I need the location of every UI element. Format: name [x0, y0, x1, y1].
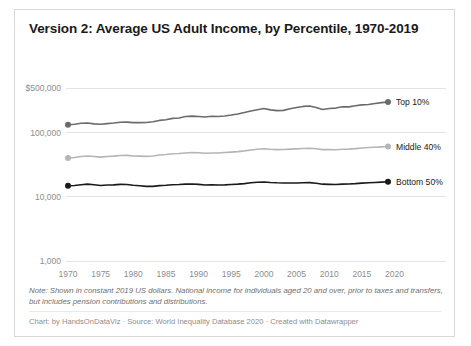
chart-card: Version 2: Average US Adult Income, by P… — [14, 9, 455, 337]
series-end-marker — [385, 144, 391, 150]
x-tick-label: 2015 — [352, 269, 371, 279]
x-tick-label: 1980 — [124, 269, 143, 279]
x-tick-label: 2020 — [385, 269, 404, 279]
x-tick-label: 1970 — [59, 269, 78, 279]
chart-title: Version 2: Average US Adult Income, by P… — [29, 20, 433, 37]
y-tick-label: 1,000 — [40, 256, 62, 266]
series-line — [68, 102, 388, 125]
gridlines — [66, 88, 446, 261]
series-end-marker — [385, 99, 391, 105]
series-label-bottom-50: Bottom 50% — [396, 177, 443, 187]
y-tick-label: 10,000 — [35, 192, 61, 202]
series-start-marker — [65, 183, 71, 189]
data-series-lines — [68, 102, 388, 186]
series-end-marker — [385, 179, 391, 185]
x-tick-label: 1975 — [91, 269, 110, 279]
chart-credit: Chart: by HandsOnDataViz · Source: World… — [29, 317, 443, 328]
y-axis-tick-labels: $500,000100,00010,0001,000 — [26, 83, 62, 266]
series-start-marker — [65, 122, 71, 128]
x-tick-label: 1995 — [222, 269, 241, 279]
series-endpoint-markers — [65, 99, 391, 189]
x-tick-label: 2000 — [254, 269, 273, 279]
chart-note: Note: Shown in constant 2019 US dollars.… — [29, 285, 443, 308]
chart-plot-area: $500,000100,00010,0001,000 1970197519801… — [15, 66, 454, 281]
y-tick-label: $500,000 — [26, 83, 62, 93]
series-label-middle-40: Middle 40% — [396, 142, 441, 152]
series-line — [68, 182, 388, 187]
x-tick-label: 1990 — [189, 269, 208, 279]
x-axis-tick-labels: 1970197519801985199019952000200520102015… — [59, 269, 405, 279]
series-line — [68, 147, 388, 158]
income-line-chart: $500,000100,00010,0001,000 1970197519801… — [15, 66, 454, 281]
y-tick-label: 100,000 — [30, 128, 61, 138]
footer-divider — [29, 311, 441, 312]
x-tick-label: 2005 — [287, 269, 306, 279]
series-legend-labels: Top 10%Middle 40%Bottom 50% — [396, 97, 443, 187]
x-tick-label: 1985 — [156, 269, 175, 279]
series-start-marker — [65, 155, 71, 161]
x-tick-label: 2010 — [320, 269, 339, 279]
series-label-top-10: Top 10% — [396, 97, 430, 107]
